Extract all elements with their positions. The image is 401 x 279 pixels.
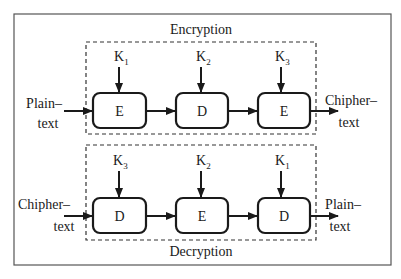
key-subscript: 3 <box>285 57 290 67</box>
encryption-input-line2: text <box>38 116 59 131</box>
key-label: K <box>275 153 285 168</box>
key-label: K <box>196 49 206 64</box>
key-subscript: 2 <box>206 57 211 67</box>
decryption-label: Decryption <box>170 244 233 259</box>
encryption-label: Encryption <box>170 22 232 37</box>
encryption-input-line1: Plain– <box>26 96 63 111</box>
encryption-output-line2: text <box>339 115 360 130</box>
key-label: K <box>114 49 124 64</box>
op-label: E <box>198 209 207 224</box>
op-label: D <box>279 209 289 224</box>
encryption-output-line1: Chipher– <box>325 93 378 108</box>
key-label: K <box>196 153 206 168</box>
decryption-output-line2: text <box>330 219 351 234</box>
triple-des-diagram: Encryption Plain– text K1 E K2 D K3 E <box>0 0 401 279</box>
key-subscript: 2 <box>206 161 211 171</box>
op-label: E <box>280 104 289 119</box>
decryption-input-line2: text <box>54 219 75 234</box>
op-label: D <box>197 104 207 119</box>
op-label: E <box>115 104 124 119</box>
key-subscript: 1 <box>124 57 129 67</box>
decryption-output-line1: Plain– <box>325 197 362 212</box>
op-label: D <box>114 209 124 224</box>
key-label: K <box>275 49 285 64</box>
key-subscript: 3 <box>123 161 128 171</box>
key-subscript: 1 <box>285 161 290 171</box>
decryption-input-line1: Chipher– <box>18 197 71 212</box>
key-label: K <box>113 153 123 168</box>
